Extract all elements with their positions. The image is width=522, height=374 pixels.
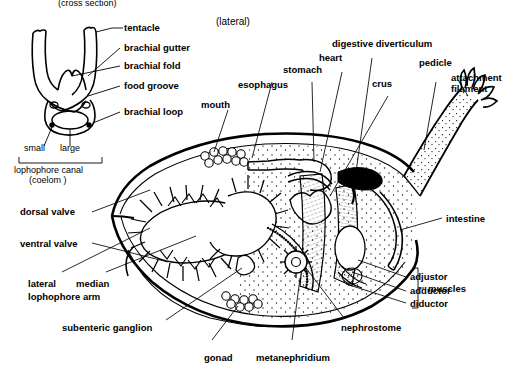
label-canal-small: small <box>24 143 45 154</box>
label-diductor: diductor <box>410 298 448 309</box>
label-brachial-loop: brachial loop <box>124 106 183 117</box>
label-filament: filament <box>451 83 487 94</box>
label-brachial-fold: brachial fold <box>124 60 180 71</box>
label-brachial-gutter: brachial gutter <box>124 42 190 53</box>
label-food-groove: food groove <box>124 80 179 91</box>
label-view-lateral: (lateral) <box>216 16 250 27</box>
label-muscles: muscles <box>428 283 466 294</box>
label-canal-large: large <box>60 143 80 154</box>
label-crus: crus <box>372 78 392 89</box>
label-heart: heart <box>319 52 342 63</box>
label-ventral-valve: ventral valve <box>20 238 78 249</box>
label-tentacle: tentacle <box>124 22 160 33</box>
label-esophagus: esophagus <box>238 79 288 90</box>
label-intestine: intestine <box>446 213 485 224</box>
label-lophophore-arm: lophophore arm <box>28 291 100 302</box>
inset-title: (cross section) <box>58 0 117 9</box>
label-stomach: stomach <box>283 64 322 75</box>
label-lateral: lateral <box>28 278 56 289</box>
figure-canvas: (cross section) tentacle brachial gutter… <box>0 0 522 374</box>
label-median: median <box>76 278 109 289</box>
label-nephrostome: nephrostome <box>341 322 401 333</box>
label-digestive-diverticulum: digestive diverticulum <box>332 38 432 49</box>
label-attachment: attachment <box>451 72 502 83</box>
label-gonad: gonad <box>204 352 233 363</box>
nephrostome-funnel <box>280 246 312 278</box>
label-mouth: mouth <box>201 99 230 110</box>
label-metanephridium: metanephridium <box>256 352 330 363</box>
gonad-cluster-dorsal <box>201 147 248 167</box>
label-coelom: (coelom ) <box>29 175 67 186</box>
label-subenteric-ganglion: subenteric ganglion <box>62 322 152 333</box>
label-dorsal-valve: dorsal valve <box>20 206 75 217</box>
label-pedicle: pedicle <box>419 57 452 68</box>
label-adjustor: adjustor <box>410 271 447 282</box>
